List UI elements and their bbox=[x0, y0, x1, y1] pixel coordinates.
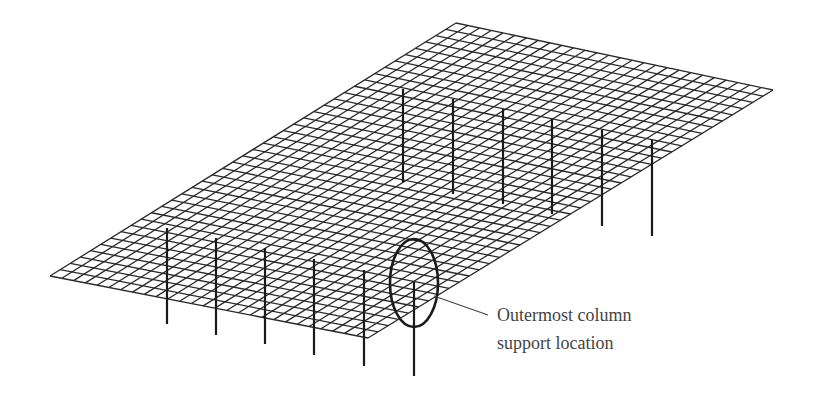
mesh-line bbox=[132, 40, 538, 292]
mesh-line bbox=[144, 43, 550, 295]
annotation-line-1: Outermost column bbox=[497, 301, 631, 329]
slab-mesh bbox=[50, 23, 773, 338]
mesh-line bbox=[85, 30, 491, 282]
leader-line bbox=[434, 296, 488, 315]
slab-mesh-figure bbox=[0, 0, 814, 398]
mesh-line bbox=[121, 38, 527, 290]
mesh-line bbox=[97, 33, 503, 285]
annotation-line-2: support location bbox=[497, 329, 631, 357]
diagram-canvas: Outermost column support location bbox=[0, 0, 814, 398]
annotation-label: Outermost column support location bbox=[497, 301, 631, 357]
mesh-line bbox=[50, 23, 456, 276]
mesh-line bbox=[74, 28, 480, 281]
